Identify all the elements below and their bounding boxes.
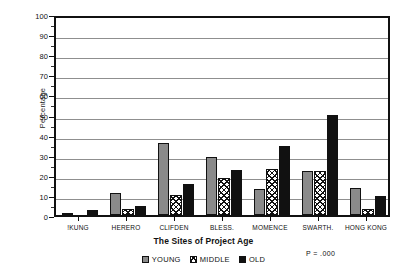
- chart-legend: YOUNGMIDDLEOLD: [0, 255, 407, 264]
- bar: [183, 184, 195, 215]
- bar: [266, 169, 278, 215]
- x-tick-label: MOMENCE: [252, 224, 287, 231]
- x-tick-label: HERERO: [111, 224, 140, 231]
- bar: [362, 209, 374, 215]
- legend-label: OLD: [249, 255, 265, 264]
- y-tick-label: 60: [12, 92, 48, 101]
- y-tick-label: 30: [12, 153, 48, 162]
- y-tick-label: 50: [12, 113, 48, 122]
- legend-item[interactable]: OLD: [239, 255, 265, 264]
- x-tick-label: CLIFDEN: [159, 224, 188, 231]
- y-tick-mark: [49, 217, 54, 218]
- legend-item[interactable]: MIDDLE: [190, 255, 230, 264]
- y-tick-label: 10: [12, 193, 48, 202]
- y-tick-label: 80: [12, 52, 48, 61]
- y-tick-label: 20: [12, 173, 48, 182]
- bar: [302, 171, 314, 215]
- legend-label: MIDDLE: [200, 255, 230, 264]
- legend-label: YOUNG: [152, 255, 181, 264]
- x-axis-title: The Sites of Project Age: [0, 236, 407, 246]
- y-tick-label: 90: [12, 32, 48, 41]
- bar: [350, 188, 362, 215]
- bar: [62, 213, 74, 215]
- bar: [122, 209, 134, 215]
- bar: [206, 157, 218, 215]
- x-tick-label: SWARTH.: [302, 224, 333, 231]
- legend-swatch-icon: [239, 256, 246, 263]
- x-tick-mark: [222, 217, 223, 221]
- y-tick-label: 40: [12, 133, 48, 142]
- x-tick-label: !KUNG: [67, 224, 89, 231]
- legend-item[interactable]: YOUNG: [142, 255, 181, 264]
- x-tick-label: HONG KONG: [345, 224, 387, 231]
- bar: [170, 195, 182, 215]
- bar: [231, 170, 243, 215]
- bar: [314, 171, 326, 215]
- x-tick-mark: [318, 217, 319, 221]
- bar: [135, 206, 147, 215]
- legend-swatch-icon: [142, 256, 149, 263]
- y-tick-label: 0: [12, 213, 48, 222]
- legend-swatch-icon: [190, 256, 197, 263]
- plot-area: [54, 16, 390, 217]
- x-tick-mark: [126, 217, 127, 221]
- x-tick-label: BLESS.: [210, 224, 234, 231]
- bar: [110, 193, 122, 215]
- chart-figure: Percentage 0102030405060708090100 !KUNGH…: [0, 0, 407, 280]
- bar: [158, 143, 170, 215]
- x-tick-mark: [78, 217, 79, 221]
- x-tick-mark: [366, 217, 367, 221]
- bar: [279, 146, 291, 215]
- bar-series-layer: [56, 18, 388, 215]
- x-tick-mark: [270, 217, 271, 221]
- y-tick-label: 100: [12, 12, 48, 21]
- x-tick-mark: [174, 217, 175, 221]
- y-tick-label: 70: [12, 72, 48, 81]
- bar: [254, 189, 266, 215]
- bar: [218, 178, 230, 215]
- bar: [87, 210, 99, 215]
- bar: [375, 196, 387, 215]
- bar: [327, 115, 339, 216]
